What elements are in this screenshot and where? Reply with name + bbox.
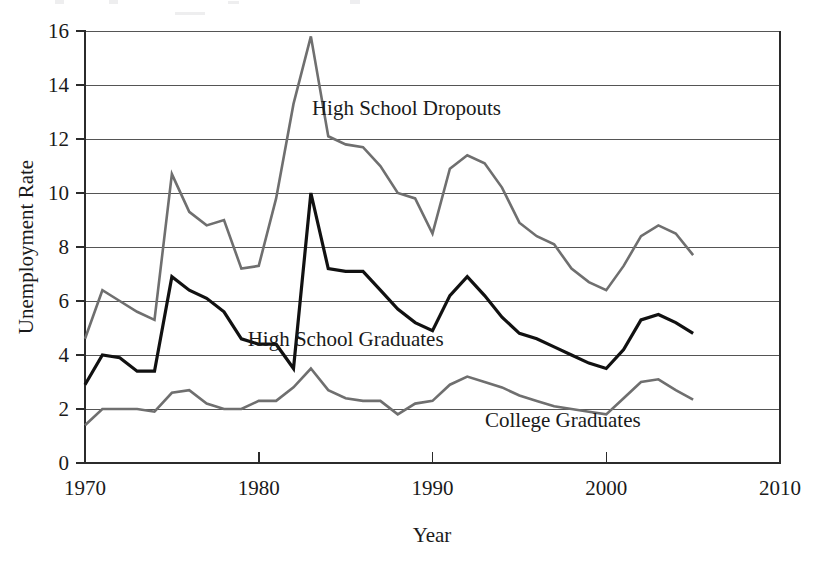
y-tick-label-2: 2 (59, 397, 70, 421)
x-tick-label-1990: 1990 (412, 476, 454, 500)
x-tick-label-1970: 1970 (64, 476, 106, 500)
series-label-high-school-dropouts: High School Dropouts (312, 96, 501, 120)
y-tick-label-12: 12 (48, 127, 69, 151)
y-tick-label-0: 0 (59, 451, 70, 475)
y-tick-label-16: 16 (48, 19, 69, 43)
chart-figure: 0246810121416 19701980199020002010 High … (0, 0, 814, 563)
chart-background (0, 0, 814, 563)
y-tick-label-6: 6 (59, 289, 70, 313)
x-tick-label-2000: 2000 (585, 476, 627, 500)
y-axis-title: Unemployment Rate (14, 160, 38, 334)
x-tick-label-1980: 1980 (238, 476, 280, 500)
x-tick-label-2010: 2010 (759, 476, 801, 500)
y-tick-label-10: 10 (48, 181, 69, 205)
unemployment-rate-line-chart: 0246810121416 19701980199020002010 High … (0, 0, 814, 563)
x-axis-title: Year (413, 523, 452, 547)
series-label-high-school-graduates: High School Graduates (248, 327, 444, 351)
series-label-college-graduates: College Graduates (485, 408, 641, 432)
y-tick-label-14: 14 (48, 73, 70, 97)
y-tick-label-8: 8 (59, 235, 70, 259)
y-tick-label-4: 4 (59, 343, 70, 367)
